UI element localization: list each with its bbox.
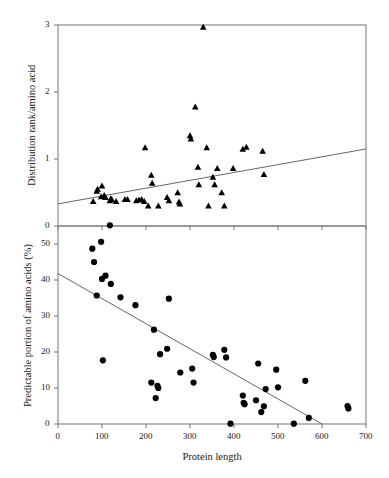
data-point	[102, 273, 108, 279]
x-axis-title-bottom: Protein length	[183, 451, 242, 462]
y-tick-label-bottom-1: 10	[41, 382, 50, 392]
data-point	[255, 360, 261, 366]
data-point	[261, 403, 267, 409]
data-point	[192, 103, 199, 109]
data-point	[100, 357, 106, 363]
data-point	[157, 351, 163, 357]
data-point	[148, 172, 155, 178]
data-point	[275, 384, 281, 390]
data-point	[218, 189, 225, 195]
y-tick-label-top-2: 2	[45, 86, 50, 96]
y-tick-label-bottom-3: 30	[41, 310, 50, 320]
data-point	[259, 148, 266, 154]
y-tick-label-top-3: 3	[45, 19, 50, 29]
data-point	[155, 203, 162, 209]
data-point	[107, 222, 113, 228]
x-tick-label-bottom-7: 700	[359, 431, 373, 441]
x-tick-label-bottom-2: 200	[139, 431, 153, 441]
data-point	[148, 380, 154, 386]
data-point	[211, 354, 217, 360]
data-point	[153, 395, 159, 401]
data-point	[164, 346, 170, 352]
data-point	[258, 409, 264, 415]
data-point	[227, 421, 233, 427]
data-point	[189, 365, 195, 371]
data-point	[221, 203, 228, 209]
data-point	[155, 385, 161, 391]
data-point	[302, 378, 308, 384]
data-point	[205, 203, 212, 209]
panel-bottom	[54, 222, 366, 428]
data-point	[214, 165, 221, 171]
data-point	[108, 281, 114, 287]
y-tick-label-bottom-0: 0	[45, 418, 50, 428]
data-point	[151, 327, 157, 333]
y-tick-label-top-1: 1	[45, 153, 50, 163]
data-point	[149, 180, 156, 186]
figure-panel-pair: 0123Distribution rank/amino acid01020304…	[0, 0, 389, 478]
data-point	[203, 144, 210, 150]
data-point	[174, 189, 181, 195]
x-tick-label-bottom-0: 0	[56, 431, 61, 441]
data-point	[177, 369, 183, 375]
data-point	[241, 401, 247, 407]
panel-top	[54, 24, 366, 230]
data-point	[243, 144, 250, 150]
x-tick-label-bottom-4: 400	[227, 431, 241, 441]
y-axis-title-bottom: Predictable portion of amino acids (%)	[22, 244, 33, 407]
y-tick-label-bottom-5: 50	[41, 238, 50, 248]
data-point	[221, 347, 227, 353]
scatter-plot-svg	[0, 0, 389, 478]
data-point	[211, 181, 218, 187]
data-point	[190, 380, 196, 386]
data-point	[261, 171, 268, 177]
data-point	[117, 294, 123, 300]
data-point	[195, 164, 202, 170]
data-point	[306, 415, 312, 421]
y-axis-title-top: Distribution rank/amino acid	[26, 65, 37, 186]
y-tick-label-bottom-4: 40	[41, 274, 50, 284]
data-point	[142, 144, 149, 150]
data-point	[223, 354, 229, 360]
x-tick-label-bottom-3: 300	[183, 431, 197, 441]
data-point	[99, 183, 106, 189]
data-point	[263, 386, 269, 392]
y-tick-label-bottom-2: 20	[41, 346, 50, 356]
data-point	[166, 296, 172, 302]
data-point	[90, 198, 97, 204]
x-tick-label-bottom-5: 500	[271, 431, 285, 441]
data-point	[345, 405, 351, 411]
data-point	[132, 302, 138, 308]
y-tick-label-top-0: 0	[45, 220, 50, 230]
x-tick-label-bottom-1: 100	[95, 431, 109, 441]
data-point	[196, 181, 203, 187]
data-point	[273, 367, 279, 373]
data-point	[91, 259, 97, 265]
data-point	[240, 392, 246, 398]
data-point	[94, 292, 100, 298]
data-point	[89, 246, 95, 252]
x-tick-label-bottom-6: 600	[315, 431, 329, 441]
plot-frame-bottom	[58, 226, 366, 424]
data-point	[230, 165, 237, 171]
data-point	[291, 421, 297, 427]
data-point	[253, 397, 259, 403]
data-point	[98, 239, 104, 245]
